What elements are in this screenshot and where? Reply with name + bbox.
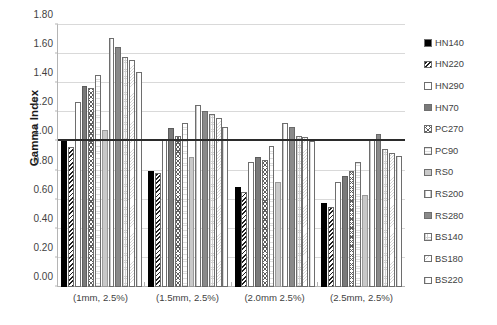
- bar-bs180-g3: [302, 137, 308, 287]
- bar-hn140-g4: [321, 203, 327, 287]
- bar-rs280-g1: [115, 47, 121, 287]
- bar-hn70-g1: [82, 86, 88, 287]
- bar-pc270-g2: [175, 136, 181, 287]
- x-axis-label: (2.5mm, 2.5%): [318, 292, 405, 303]
- bar-hn290-g2: [162, 140, 168, 287]
- legend: HN140HN220HN290HN70PC270PC90RS0RS200RS28…: [424, 32, 496, 291]
- bar-groups: [58, 25, 405, 287]
- bar-rs0-g3: [275, 182, 281, 287]
- bar-hn220-g1: [68, 147, 74, 287]
- legend-swatch-icon: [424, 255, 432, 263]
- legend-swatch-icon: [424, 125, 432, 133]
- bar-bs220-g1: [136, 72, 142, 287]
- legend-item-hn220[interactable]: HN220: [424, 54, 496, 76]
- legend-item-label: PC270: [435, 124, 463, 134]
- plot-area: 1.801.601.401.201.000.800.600.400.200.00: [57, 24, 405, 287]
- legend-item-rs0[interactable]: RS0: [424, 162, 496, 184]
- bar-bs140-g3: [296, 136, 302, 287]
- y-tick-label: 0.40: [34, 212, 53, 223]
- legend-item-pc90[interactable]: PC90: [424, 140, 496, 162]
- bar-pc90-g2: [182, 123, 188, 287]
- bar-hn290-g1: [75, 102, 81, 287]
- bar-rs0-g4: [362, 195, 368, 287]
- legend-swatch-icon: [424, 277, 432, 285]
- legend-item-label: RS280: [435, 211, 463, 221]
- y-tick-label: 1.40: [34, 67, 53, 78]
- bar-rs200-g2: [195, 105, 201, 287]
- legend-swatch-icon: [424, 147, 432, 155]
- y-tick-label: 1.00: [34, 125, 53, 136]
- bar-rs280-g3: [289, 127, 295, 287]
- bar-hn70-g3: [255, 157, 261, 287]
- bar-bs180-g2: [216, 118, 222, 287]
- bar-bs220-g3: [309, 141, 315, 287]
- bar-pc90-g1: [95, 75, 101, 288]
- bar-pc270-g3: [262, 160, 268, 287]
- x-axis-label: (1mm, 2.5%): [57, 292, 144, 303]
- legend-swatch-icon: [424, 212, 432, 220]
- legend-item-rs200[interactable]: RS200: [424, 183, 496, 205]
- legend-item-bs140[interactable]: BS140: [424, 226, 496, 248]
- legend-item-hn140[interactable]: HN140: [424, 32, 496, 54]
- y-tick-label: 0.60: [34, 183, 53, 194]
- legend-item-bs220[interactable]: BS220: [424, 270, 496, 292]
- y-tick-label: 1.60: [34, 38, 53, 49]
- legend-item-label: BS220: [435, 275, 463, 285]
- reference-line-1-00: [58, 139, 405, 141]
- bar-hn220-g3: [241, 192, 247, 287]
- x-axis-label: (1.5mm, 2.5%): [144, 292, 231, 303]
- gamma-index-bar-chart: Gamma Index 1.801.601.401.201.000.800.60…: [0, 0, 497, 325]
- bar-bs180-g4: [389, 153, 395, 287]
- bar-rs200-g3: [282, 123, 288, 287]
- legend-item-pc270[interactable]: PC270: [424, 118, 496, 140]
- legend-swatch-icon: [424, 233, 432, 241]
- bar-rs280-g2: [202, 111, 208, 287]
- bar-rs0-g2: [189, 157, 195, 287]
- bar-rs0-g1: [102, 130, 108, 287]
- legend-item-rs280[interactable]: RS280: [424, 205, 496, 227]
- legend-swatch-icon: [424, 39, 432, 47]
- bar-hn70-g4: [342, 176, 348, 287]
- bar-rs200-g1: [109, 38, 115, 287]
- legend-item-label: RS200: [435, 189, 463, 199]
- legend-swatch-icon: [424, 61, 432, 69]
- bar-hn70-g2: [168, 128, 174, 287]
- legend-item-label: BS140: [435, 232, 463, 242]
- bar-hn220-g4: [328, 207, 334, 287]
- legend-item-bs180[interactable]: BS180: [424, 248, 496, 270]
- legend-item-label: HN70: [435, 103, 459, 113]
- bar-group: [58, 25, 145, 287]
- bar-group: [232, 25, 319, 287]
- y-tick-label: 0.20: [34, 241, 53, 252]
- bar-bs180-g1: [129, 60, 135, 287]
- y-tick-label: 0.00: [34, 271, 53, 282]
- legend-swatch-icon: [424, 104, 432, 112]
- bar-pc270-g1: [88, 88, 94, 287]
- x-axis-label: (2.0mm 2.5%): [231, 292, 318, 303]
- legend-item-hn70[interactable]: HN70: [424, 97, 496, 119]
- bar-pc90-g4: [355, 162, 361, 287]
- bar-hn220-g2: [155, 173, 161, 287]
- legend-item-label: HN140: [435, 38, 464, 48]
- y-tick-label: 1.20: [34, 96, 53, 107]
- bar-rs280-g4: [376, 134, 382, 287]
- bar-hn290-g4: [335, 182, 341, 287]
- bar-hn140-g2: [148, 171, 154, 287]
- legend-item-label: RS0: [435, 167, 453, 177]
- bar-bs140-g4: [382, 149, 388, 287]
- bar-hn140-g3: [235, 187, 241, 287]
- legend-item-label: BS180: [435, 254, 463, 264]
- bar-hn290-g3: [248, 162, 254, 287]
- legend-swatch-icon: [424, 169, 432, 177]
- bar-pc270-g4: [349, 171, 355, 287]
- bar-bs140-g1: [122, 57, 128, 287]
- bar-bs220-g2: [222, 127, 228, 287]
- x-axis-labels: (1mm, 2.5%)(1.5mm, 2.5%)(2.0mm 2.5%)(2.5…: [57, 292, 405, 303]
- legend-item-label: PC90: [435, 146, 458, 156]
- legend-swatch-icon: [424, 190, 432, 198]
- bar-group: [145, 25, 232, 287]
- bar-pc90-g3: [269, 146, 275, 287]
- legend-item-hn290[interactable]: HN290: [424, 75, 496, 97]
- bar-rs200-g4: [369, 140, 375, 287]
- legend-item-label: HN290: [435, 81, 464, 91]
